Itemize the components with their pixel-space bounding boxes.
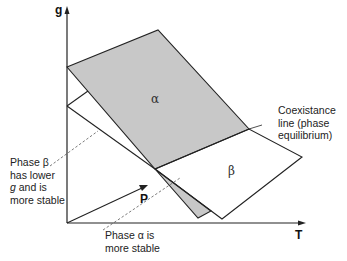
coexistence-label-line2: line (phase	[278, 117, 336, 130]
p-axis	[67, 188, 142, 223]
g-axis-label: g	[55, 3, 62, 17]
coexistence-label: Coexistance line (phase equilibrium)	[278, 104, 336, 142]
beta-stable-line1: Phase β	[10, 156, 65, 169]
g-axis-arrow-icon	[65, 6, 70, 14]
p-axis-arrow-icon	[139, 185, 148, 191]
alpha-stable-label: Phase α is more stable	[105, 229, 160, 254]
beta-symbol: β	[228, 164, 235, 178]
coexistence-leader	[249, 125, 262, 129]
beta-stable-line3-rest: and is	[16, 181, 47, 193]
p-axis-label: P	[140, 192, 148, 206]
beta-stable-line3: g and is	[10, 181, 65, 194]
t-axis-label: T	[295, 228, 302, 242]
alpha-stable-line1: Phase α is	[105, 229, 160, 242]
alpha-stable-line2: more stable	[105, 242, 160, 255]
t-axis-arrow-icon	[298, 221, 306, 226]
beta-stable-line4: more stable	[10, 194, 65, 207]
alpha-symbol: α	[151, 92, 159, 106]
beta-stable-line2: has lower	[10, 169, 65, 182]
coexistence-label-line3: equilibrium)	[278, 129, 336, 142]
beta-stable-label: Phase β has lower g and is more stable	[10, 156, 65, 206]
coexistence-label-line1: Coexistance	[278, 104, 336, 117]
beta-back-edge	[67, 91, 88, 106]
